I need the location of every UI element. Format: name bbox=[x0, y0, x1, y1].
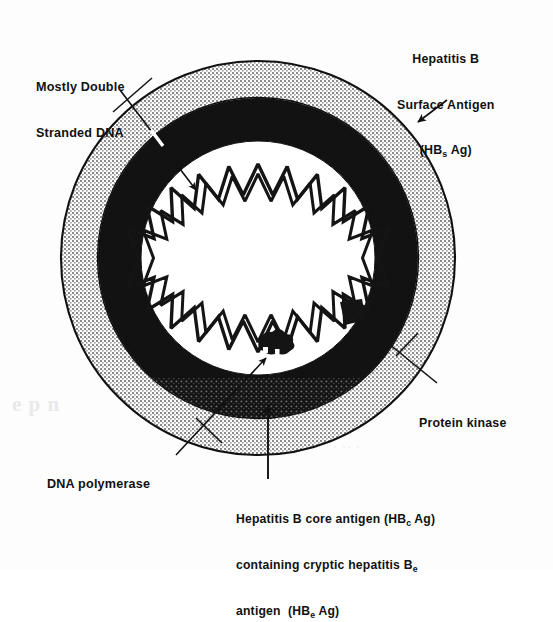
core-antigen-line-3: antigen (HBe Ag) bbox=[236, 604, 435, 620]
core-antigen-line-1: Hepatitis B core antigen (HBc Ag) bbox=[236, 512, 435, 528]
label-dna-polymerase: DNA polymerase bbox=[47, 446, 150, 523]
label-mostly-double-stranded-dna: Mostly Double Stranded DNA bbox=[36, 49, 125, 172]
surface-antigen-line-3: (HBs Ag) bbox=[397, 143, 495, 160]
dna-label-line-1: Mostly Double bbox=[36, 80, 125, 95]
core-antigen-line-2-subscript: e bbox=[413, 563, 418, 573]
label-hepatitis-b-surface-antigen: Hepatitis B Surface Antigen (HBs Ag) bbox=[397, 22, 495, 190]
protein-kinase-text: Protein kinase bbox=[419, 416, 507, 431]
core-antigen-line-3-b: Ag) bbox=[315, 604, 339, 618]
core-antigen-line-3-a: antigen (HB bbox=[236, 604, 310, 618]
core-antigen-line-1-b: Ag) bbox=[411, 512, 435, 526]
core-antigen-line-2: containing cryptic hepatitis Be bbox=[236, 558, 435, 574]
surface-antigen-paren-open: (HB bbox=[420, 143, 443, 157]
dna-polymerase-text: DNA polymerase bbox=[47, 477, 150, 492]
scan-artifact-left: e p n bbox=[12, 392, 60, 417]
surface-antigen-line-1: Hepatitis B bbox=[397, 52, 495, 67]
surface-antigen-paren-close: Ag) bbox=[447, 143, 471, 157]
scan-artifact-mid: · ·· · bbox=[333, 440, 361, 455]
label-hepatitis-b-core-antigen: Hepatitis B core antigen (HBc Ag) contai… bbox=[236, 482, 435, 622]
dna-label-line-2: Stranded DNA bbox=[36, 126, 125, 141]
surface-antigen-line-2: Surface Antigen bbox=[397, 98, 495, 113]
core-antigen-line-2-a: containing cryptic hepatitis B bbox=[236, 558, 413, 572]
core-antigen-line-1-a: Hepatitis B core antigen (HB bbox=[236, 512, 406, 526]
label-protein-kinase: Protein kinase bbox=[419, 386, 507, 462]
